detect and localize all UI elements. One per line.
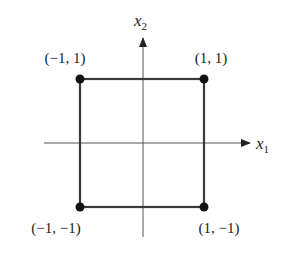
vertex-point-bottom-right	[200, 203, 209, 212]
vertex-label-bottom-right: (1, −1)	[199, 220, 240, 237]
x1-axis-label: x1	[255, 134, 269, 155]
vertex-point-bottom-left	[76, 203, 85, 212]
vertex-label-top-left: (−1, 1)	[45, 50, 86, 67]
x2-axis-label: x2	[133, 11, 147, 32]
vertex-label-top-right: (1, 1)	[195, 50, 228, 67]
vertex-label-bottom-left: (−1, −1)	[31, 220, 80, 237]
vertex-point-top-left	[76, 75, 85, 84]
square-diagram: x2 x1 (−1, 1) (1, 1) (−1, −1) (1, −1)	[0, 0, 281, 253]
vertex-point-top-right	[200, 75, 209, 84]
